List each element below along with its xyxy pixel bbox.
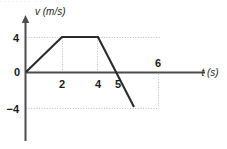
x-axis-title: t (s)	[201, 67, 218, 78]
y-tick-label-4: 4	[13, 32, 20, 44]
y-axis-arrow-icon	[22, 15, 29, 23]
velocity-time-graph-figure: ........ .. . . v (m/s) t (s) 4 −4	[0, 0, 227, 149]
axes	[22, 15, 205, 141]
x-tick-label-5: 5	[115, 78, 121, 90]
y-axis-title: v (m/s)	[35, 6, 66, 17]
x-tick-label-2: 2	[59, 78, 65, 90]
origin-label: 0	[14, 66, 20, 78]
x-tick-label-4: 4	[95, 78, 102, 90]
x-tick-label-6: 6	[155, 57, 161, 69]
y-tick-label-minus-4: −4	[6, 103, 19, 115]
chart-canvas: v (m/s) t (s) 4 −4 0 2 4 5 6	[0, 0, 227, 149]
